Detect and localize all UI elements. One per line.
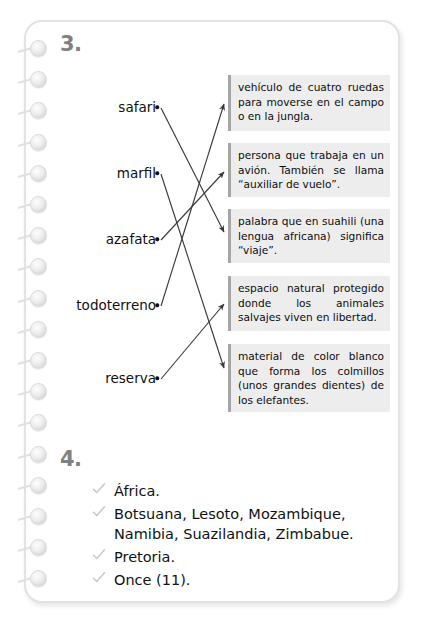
list-item-text: Pretoria.: [114, 549, 175, 565]
word-dot-marfil[interactable]: [155, 171, 159, 175]
word-dot-todoterreno[interactable]: [155, 303, 159, 307]
exercise-3-number: 3.: [60, 32, 82, 56]
list-item-text: África.: [114, 483, 160, 499]
definition-box-3: palabra que en suahili (una lengua afric…: [228, 209, 390, 263]
list-item-text: Once (11).: [114, 572, 190, 588]
word-label-reserva: reserva: [105, 370, 156, 386]
word-dot-safari[interactable]: [155, 105, 159, 109]
answer-list: África. Botsuana, Lesoto, Mozambique, Na…: [92, 481, 384, 593]
word-label-safari: safari: [118, 99, 156, 115]
check-icon: [92, 571, 106, 585]
list-item-text: Botsuana, Lesoto, Mozambique, Namibia, S…: [114, 506, 354, 542]
list-item: África.: [92, 481, 384, 501]
check-icon: [92, 482, 106, 496]
check-icon: [92, 505, 106, 519]
definition-box-1: vehículo de cuatro ruedas para moverse e…: [228, 75, 390, 131]
word-label-todoterreno: todoterreno: [76, 297, 156, 313]
list-item: Pretoria.: [92, 547, 384, 567]
check-icon: [92, 548, 106, 562]
word-dot-reserva[interactable]: [155, 376, 159, 380]
definition-box-4: espacio natural protegido donde los anim…: [228, 276, 390, 331]
definition-box-5: material de color blanco que forma los c…: [228, 344, 390, 412]
word-label-azafata: azafata: [106, 231, 156, 247]
word-dot-azafata[interactable]: [155, 237, 159, 241]
definition-box-2: persona que trabaja en un avión. También…: [228, 143, 390, 197]
word-label-marfil: marfil: [117, 165, 156, 181]
exercise-4-number: 4.: [60, 447, 82, 471]
list-item: Once (11).: [92, 570, 384, 590]
list-item: Botsuana, Lesoto, Mozambique, Namibia, S…: [92, 504, 384, 544]
